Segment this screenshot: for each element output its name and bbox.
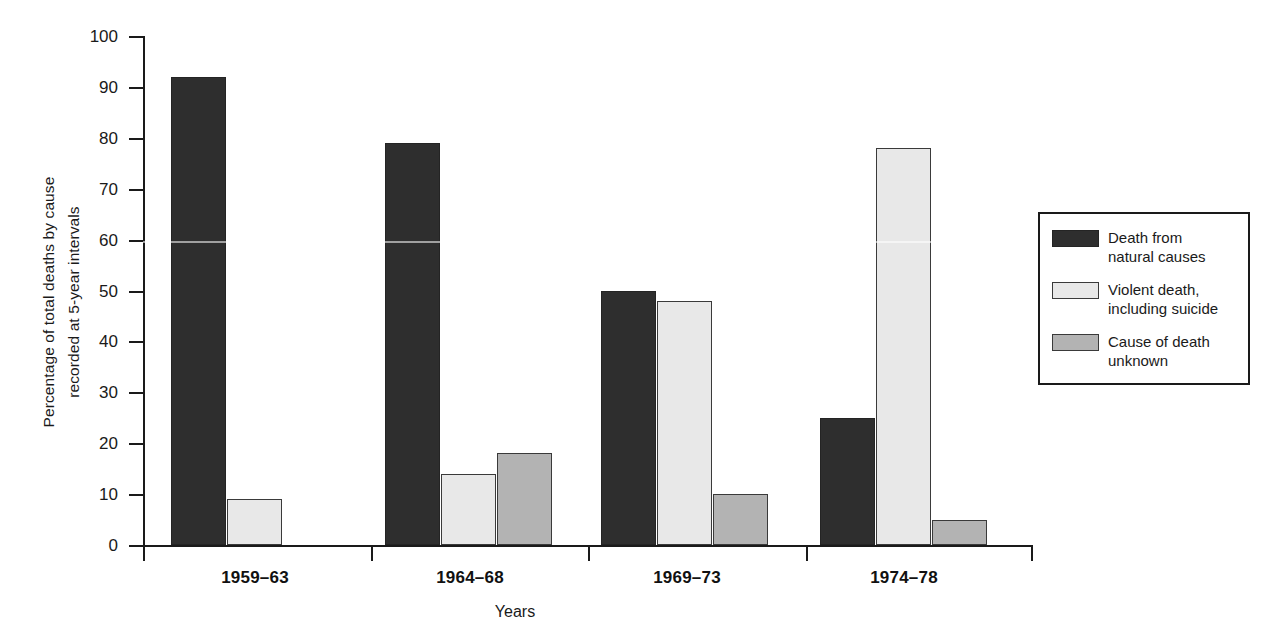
bar-violent-2 — [657, 301, 712, 545]
y-tick — [129, 138, 144, 140]
x-tick-label: 1959–63 — [175, 568, 335, 588]
y-tick-label: 100 — [58, 28, 118, 45]
bar-unknown-3 — [932, 520, 987, 545]
bar-natural-1 — [385, 143, 440, 545]
legend-swatch-dark — [1052, 230, 1099, 247]
y-tick-label: 20 — [58, 435, 118, 452]
bar-chart-figure: Percentage of total deaths by cause reco… — [0, 0, 1282, 629]
y-tick-label: 60 — [58, 232, 118, 249]
y-tick-label: 0 — [58, 537, 118, 554]
bar-violent-3 — [876, 148, 931, 545]
y-tick — [129, 392, 144, 394]
y-tick — [129, 87, 144, 89]
y-tick — [129, 291, 144, 293]
x-tick — [143, 547, 145, 561]
x-axis-title: Years — [0, 603, 1030, 621]
bar-violent-1 — [441, 474, 496, 545]
y-tick — [129, 189, 144, 191]
bar-natural-2 — [601, 291, 656, 546]
x-tick — [371, 547, 373, 561]
y-tick — [129, 36, 144, 38]
y-tick — [129, 443, 144, 445]
x-tick — [1031, 547, 1033, 561]
y-tick — [129, 494, 144, 496]
bar-natural-0 — [171, 77, 226, 545]
x-tick — [806, 547, 808, 561]
bar-natural-3 — [820, 418, 875, 545]
y-tick-label: 50 — [58, 283, 118, 300]
x-tick-label: 1964–68 — [390, 568, 550, 588]
y-tick — [129, 545, 144, 547]
x-tick-label: 1969–73 — [607, 568, 767, 588]
bar-violent-0 — [227, 499, 282, 545]
x-tick-label: 1974–78 — [824, 568, 984, 588]
legend-label: Death from natural causes — [1108, 228, 1206, 266]
legend-item: Cause of death unknown — [1052, 332, 1210, 370]
bar-unknown-2 — [713, 494, 768, 545]
y-tick-label: 70 — [58, 181, 118, 198]
legend-swatch-gray — [1052, 334, 1099, 351]
legend-label: Cause of death unknown — [1108, 332, 1210, 370]
y-tick — [129, 341, 144, 343]
legend-label: Violent death, including suicide — [1108, 280, 1218, 318]
x-tick — [588, 547, 590, 561]
y-tick-label: 30 — [58, 384, 118, 401]
legend-item: Death from natural causes — [1052, 228, 1206, 266]
legend-swatch-light — [1052, 282, 1099, 299]
bar-unknown-1 — [497, 453, 552, 545]
y-tick — [129, 240, 144, 242]
y-tick-label: 40 — [58, 333, 118, 350]
y-tick-label: 90 — [58, 79, 118, 96]
y-tick-label: 10 — [58, 486, 118, 503]
legend-item: Violent death, including suicide — [1052, 280, 1218, 318]
legend: Death from natural causesViolent death, … — [1038, 212, 1250, 385]
y-tick-label: 80 — [58, 130, 118, 147]
